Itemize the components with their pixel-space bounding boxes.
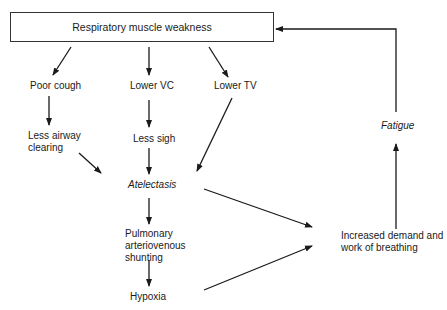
node-less-airway-line1: Less airway [28, 130, 81, 142]
node-shunting-line1: Pulmonary [125, 228, 186, 240]
node-shunting-line3: shunting [125, 252, 186, 264]
arrow-hypoxia-to-demand [204, 246, 312, 290]
arrow-fatigue-to-root [276, 29, 396, 112]
node-hypoxia: Hypoxia [130, 291, 166, 303]
root-node-box: Respiratory muscle weakness [10, 12, 274, 42]
node-increased-demand: Increased demand and work of breathing [341, 230, 443, 254]
root-node-label: Respiratory muscle weakness [72, 21, 211, 33]
arrow-less-airway-to-atelectasis [79, 153, 101, 173]
arrow-lower-tv-to-atelectasis [197, 98, 232, 171]
node-demand-line1: Increased demand and [341, 230, 443, 242]
arrow-root-to-lower-tv [209, 47, 228, 77]
node-atelectasis: Atelectasis [128, 179, 176, 191]
node-less-airway-line2: clearing [28, 142, 81, 154]
diagram-connectors [0, 0, 447, 310]
node-less-airway-clearing: Less airway clearing [28, 130, 81, 154]
node-pulmonary-shunting: Pulmonary arteriovenous shunting [125, 228, 186, 264]
node-less-sigh: Less sigh [133, 133, 175, 145]
node-shunting-line2: arteriovenous [125, 240, 186, 252]
node-lower-vc: Lower VC [130, 80, 174, 92]
node-poor-cough: Poor cough [30, 80, 81, 92]
node-demand-line2: work of breathing [341, 242, 443, 254]
arrow-root-to-poor-cough [53, 47, 71, 75]
node-fatigue: Fatigue [381, 120, 414, 132]
node-lower-tv: Lower TV [214, 80, 257, 92]
arrow-atelectasis-to-demand [204, 189, 312, 227]
